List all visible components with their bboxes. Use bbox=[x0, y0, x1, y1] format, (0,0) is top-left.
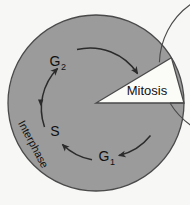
diagram-canvas: G 2 S G 1 Mitosis Interphase bbox=[0, 0, 190, 205]
label-g2-subscript: 2 bbox=[61, 62, 66, 72]
label-g1-base: G bbox=[99, 148, 110, 164]
label-s: S bbox=[50, 123, 59, 139]
label-g2-base: G bbox=[50, 53, 61, 69]
label-mitosis: Mitosis bbox=[127, 83, 168, 98]
cell-cycle-diagram: G 2 S G 1 Mitosis Interphase bbox=[0, 0, 190, 205]
label-g1-subscript: 1 bbox=[110, 157, 115, 167]
